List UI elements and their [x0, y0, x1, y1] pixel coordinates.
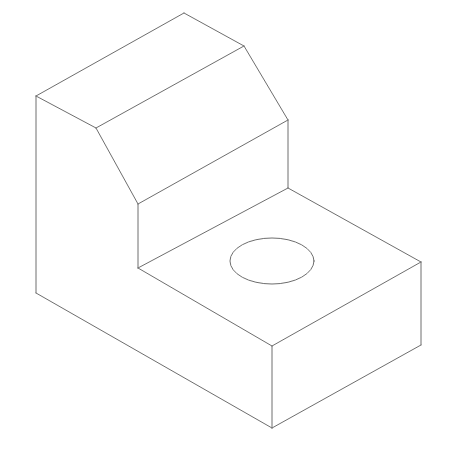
- edge-step-base-left: [138, 188, 288, 268]
- edge-top-back-right: [184, 13, 244, 46]
- edge-ledge-front-right: [272, 262, 421, 346]
- edge-ledge-front-left: [138, 268, 272, 346]
- block-edges: [36, 13, 421, 428]
- edge-chamfer-right: [244, 46, 288, 120]
- edge-top-back-left: [36, 13, 184, 96]
- edge-chamfer-bottom: [138, 120, 288, 204]
- edge-top-front-left: [36, 96, 96, 128]
- drawing-canvas: [0, 0, 459, 450]
- edge-chamfer-left: [96, 128, 138, 204]
- isometric-block-drawing: [0, 0, 459, 450]
- circular-hole: [230, 238, 314, 284]
- edge-bottom-right: [272, 345, 421, 428]
- edge-top-front-ridge: [96, 46, 244, 128]
- edge-ledge-back-right: [288, 188, 421, 262]
- edge-bottom-left: [36, 293, 272, 428]
